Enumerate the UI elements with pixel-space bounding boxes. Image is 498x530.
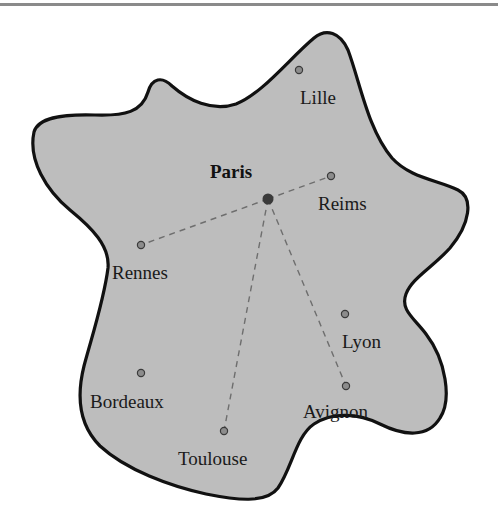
city-marker-icon <box>327 172 334 179</box>
city-marker-icon <box>137 369 144 376</box>
city-label: Lyon <box>342 331 382 352</box>
capital-marker-icon <box>263 194 274 205</box>
city-marker-icon <box>342 382 349 389</box>
city-label: Lille <box>300 87 336 108</box>
city-label: Rennes <box>112 262 168 283</box>
city-marker-icon <box>137 241 144 248</box>
city-label: Reims <box>318 193 367 214</box>
city-label: Avignon <box>303 401 369 422</box>
city-label: Bordeaux <box>90 391 164 412</box>
city-marker-icon <box>220 427 227 434</box>
city-marker-icon <box>295 66 302 73</box>
capital-label: Paris <box>210 161 252 182</box>
city-label: Toulouse <box>178 448 247 469</box>
france-map: LilleReimsRennesLyonBordeauxAvignonToulo… <box>0 0 498 530</box>
city-marker-icon <box>341 310 348 317</box>
country-outline <box>33 33 468 500</box>
